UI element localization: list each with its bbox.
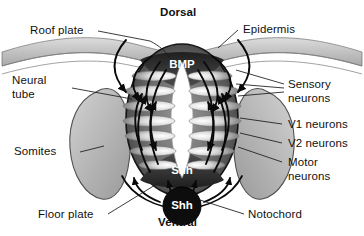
- v1-neurons-label: V1 neurons: [288, 118, 348, 131]
- bmp-label: BMP: [162, 58, 202, 70]
- roof-plate-label: Roof plate: [30, 24, 83, 37]
- somites-label: Somites: [14, 145, 56, 158]
- dorsal-label: Dorsal: [160, 6, 196, 19]
- motor-neurons-label-line2: neurons: [288, 170, 330, 183]
- figure-canvas: Dorsal Ventral Roof plate Epidermis Neur…: [0, 0, 364, 236]
- motor-neurons-label-line1: Motor: [288, 156, 318, 169]
- floor-plate-label: Floor plate: [38, 208, 93, 221]
- somite-right: [234, 89, 295, 200]
- shh-floor-plate-label: Shh: [163, 164, 201, 176]
- neural-tube-label-line1: Neural: [12, 74, 46, 87]
- notochord-label: Notochord: [248, 208, 302, 221]
- v2-neurons-label: V2 neurons: [288, 137, 348, 150]
- sensory-neurons-label-line1: Sensory: [288, 78, 331, 91]
- epidermis-label: Epidermis: [243, 23, 295, 36]
- ventral-label: Ventral: [158, 216, 197, 229]
- shh-notochord-label: Shh: [163, 199, 201, 211]
- sensory-neurons-label-line2: neurons: [288, 92, 330, 105]
- neural-tube-label-line2: tube: [12, 88, 35, 101]
- somite-left: [70, 89, 131, 200]
